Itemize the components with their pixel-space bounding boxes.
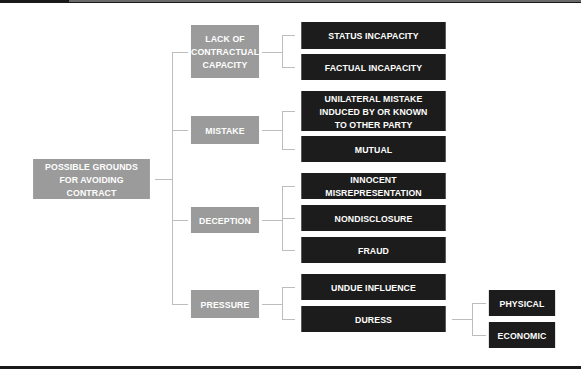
leaf-undue-influence: UNDUE INFLUENCE [301,274,445,300]
category-label: MISTAKE [205,124,244,137]
connector [282,149,295,150]
leaf-label: DURESS [355,313,392,326]
leaf-label: STATUS INCAPACITY [328,29,418,42]
top-border-segment [69,0,581,2]
connector [262,304,282,305]
connector [155,179,172,180]
connector [282,111,295,112]
category-label: DECEPTION [199,214,251,227]
category-lack-of-capacity: LACK OF CONTRACTUAL CAPACITY [191,25,259,78]
leaf-label: ECONOMIC [498,329,547,342]
leaf-nondisclosure: NONDISCLOSURE [301,205,445,231]
leaf-status-incapacity: STATUS INCAPACITY [301,22,445,49]
connector [172,52,188,53]
connector [282,250,295,251]
category-pressure: PRESSURE [191,290,259,318]
connector [282,287,295,288]
connector [472,335,486,336]
root-label: POSSIBLE GROUNDS FOR AVOIDING CONTRACT [37,160,146,199]
leaf-label: UNILATERAL MISTAKE INDUCED BY OR KNOWN T… [314,92,433,131]
connector [282,218,295,219]
category-deception: DECEPTION [191,207,259,233]
leaf-economic: ECONOMIC [489,322,555,348]
connector [172,130,188,131]
category-label: LACK OF CONTRACTUAL CAPACITY [191,32,259,71]
leaf-factual-incapacity: FACTUAL INCAPACITY [301,54,445,80]
connector [282,319,295,320]
connector [282,287,283,320]
connector [262,220,282,221]
connector [172,304,188,305]
connector [282,35,295,36]
leaf-mutual: MUTUAL [301,136,445,162]
leaf-label: MUTUAL [355,143,392,156]
leaf-label: PHYSICAL [500,297,545,310]
leaf-unilateral-mistake: UNILATERAL MISTAKE INDUCED BY OR KNOWN T… [301,91,445,131]
category-label: PRESSURE [201,298,250,311]
connector [262,52,282,53]
connector [282,111,283,149]
leaf-duress: DURESS [301,306,445,332]
leaf-physical: PHYSICAL [489,290,555,316]
leaf-label: FACTUAL INCAPACITY [325,61,422,74]
connector [172,52,173,305]
root-node: POSSIBLE GROUNDS FOR AVOIDING CONTRACT [33,159,150,199]
category-mistake: MISTAKE [191,116,259,144]
connector [282,67,295,68]
connector [472,303,473,335]
connector [282,35,283,68]
connector [452,319,472,320]
leaf-innocent-misrepresentation: INNOCENT MISREPRESENTATION [301,173,445,199]
connector [262,130,282,131]
leaf-label: FRAUD [358,244,389,257]
leaf-fraud: FRAUD [301,237,445,263]
leaf-label: NONDISCLOSURE [335,212,413,225]
leaf-label: UNDUE INFLUENCE [331,281,416,294]
connector [472,303,486,304]
leaf-label: INNOCENT MISREPRESENTATION [305,173,442,199]
connector [282,186,295,187]
connector [172,220,188,221]
